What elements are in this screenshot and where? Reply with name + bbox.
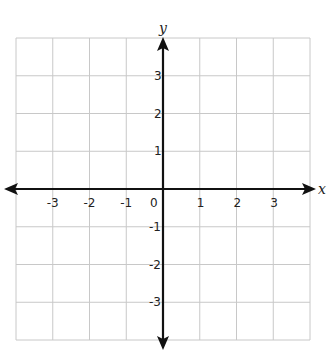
y-axis-label: y	[158, 20, 168, 36]
y-tick-label: 3	[154, 69, 162, 83]
y-tick-label: -1	[149, 220, 161, 234]
x-tick-label: 2	[234, 196, 242, 210]
y-tick-label: -2	[149, 258, 161, 272]
x-tick-label: 1	[197, 196, 205, 210]
y-tick-label: 2	[154, 107, 162, 121]
x-tick-label: -2	[84, 196, 96, 210]
coordinate-plane: y x 0 -3-2-1123 321-1-2-3	[0, 0, 336, 364]
x-axis	[4, 183, 316, 195]
y-tick-label: 1	[154, 144, 162, 158]
x-axis-label: x	[318, 181, 326, 197]
x-tick-label: -1	[120, 196, 132, 210]
origin-label: 0	[150, 196, 158, 210]
y-tick-label: -3	[149, 295, 161, 309]
x-tick-label: 3	[270, 196, 278, 210]
x-tick-label: -3	[47, 196, 59, 210]
